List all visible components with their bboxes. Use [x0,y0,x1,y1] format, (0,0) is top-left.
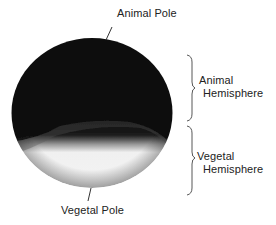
vegetal-hemisphere-label-line1: Vegetal [197,150,263,163]
animal-hemisphere-brace [187,55,195,121]
vegetal-hemisphere-brace [187,126,195,195]
animal-hemisphere-label: Animal Hemisphere [199,74,263,100]
vegetal-hemisphere-label: Vegetal Hemisphere [197,150,263,176]
animal-pole-leader-line [106,27,112,40]
animal-pole-label: Animal Pole [117,7,177,20]
animal-hemisphere-label-line2: Hemisphere [199,87,263,100]
egg-sphere [10,36,176,191]
vegetal-pole-leader-line [88,188,91,201]
vegetal-hemisphere-label-line2: Hemisphere [197,163,263,176]
egg-diagram [0,0,276,225]
animal-hemisphere-label-line1: Animal [199,74,263,87]
vegetal-pole-label: Vegetal Pole [61,204,124,217]
